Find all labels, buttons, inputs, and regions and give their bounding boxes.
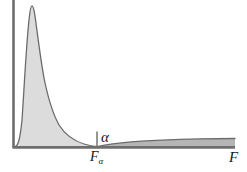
critical-value-base: F xyxy=(90,149,99,164)
acceptance-region-shading xyxy=(14,6,97,147)
x-axis-label: F xyxy=(229,150,238,165)
critical-value-label: Fα xyxy=(90,150,103,164)
critical-value-subscript: α xyxy=(99,156,104,166)
distribution-chart-svg xyxy=(0,0,247,172)
tail-area-label: α xyxy=(101,130,109,145)
f-distribution-figure: F Fα α xyxy=(0,0,247,172)
